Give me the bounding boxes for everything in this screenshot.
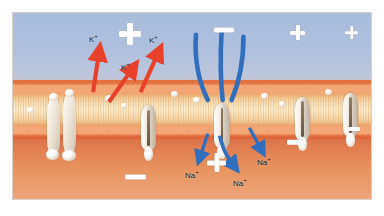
ion-label-potassium: K+ [149, 34, 158, 45]
ion-label-sodium: Na+ [185, 169, 199, 180]
membrane-diagram: K+ K+ K+ Na+ Na+ Na+ [12, 12, 372, 200]
ion-label-sodium: Na+ [233, 177, 247, 188]
sodium-influx-arrows-outer [196, 31, 244, 100]
ion-charge: + [126, 61, 130, 67]
ion-symbol: Na [233, 179, 243, 188]
ion-charge: + [243, 177, 247, 183]
ion-charge: + [267, 156, 271, 162]
ion-symbol: Na [257, 158, 267, 167]
ion-label-sodium: Na+ [257, 156, 271, 167]
potassium-efflux-arrows [93, 53, 158, 102]
ion-charge: + [94, 33, 98, 39]
ion-charge: + [154, 34, 158, 40]
sodium-influx-arrows-inner [200, 128, 261, 166]
ion-charge: + [195, 169, 199, 175]
ion-label-potassium: K+ [121, 61, 130, 72]
ion-symbol: Na [185, 171, 195, 180]
ion-label-potassium: K+ [89, 33, 98, 44]
